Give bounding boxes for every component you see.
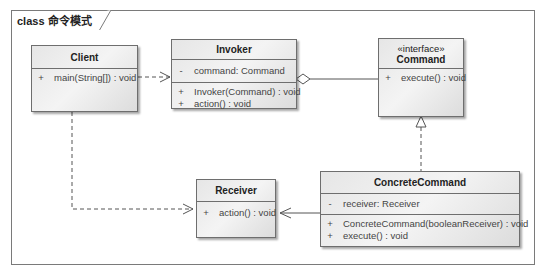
dependency-client-receiver [72,112,193,214]
association-concretecommand-receiver [280,208,320,218]
attribute-text: receiver: Receiver [339,198,420,210]
class-client[interactable]: Client + main(String[]) : void [31,45,138,112]
visibility-marker: - [172,65,190,77]
class-client-header: Client [32,46,137,69]
attribute-text: command: Command [190,65,285,77]
class-receiver[interactable]: Receiver + action() : void [196,179,276,238]
visibility-marker: + [379,72,397,84]
stereotype: «interface» [379,43,463,54]
visibility-marker: + [172,98,190,110]
visibility-marker: + [321,230,339,242]
operation-text: Invoker(Command) : void [190,86,301,98]
operation-row: + main(String[]) : void [32,72,137,84]
operation-text: execute() : void [397,72,466,84]
operation-text: main(String[]) : void [50,72,136,84]
operation-row: + action() : void [172,98,296,110]
operations-section: + main(String[]) : void [32,69,137,87]
class-name: Command [379,54,463,65]
operation-row: + Invoker(Command) : void [172,86,296,98]
operation-row: + execute() : void [321,230,519,242]
operation-text: action() : void [215,207,276,219]
attributes-section: - receiver: Receiver [321,194,519,215]
operation-row: + execute() : void [379,72,463,84]
aggregation-invoker-command [296,74,378,84]
visibility-marker: + [32,72,50,84]
visibility-marker: + [321,218,339,230]
visibility-marker: + [172,86,190,98]
class-name: Client [32,52,137,63]
class-name: Invoker [172,44,296,55]
attributes-section: - command: Command [172,60,296,83]
operation-row: + action() : void [197,207,275,219]
class-concrete-command[interactable]: ConcreteCommand - receiver: Receiver + C… [320,171,520,247]
class-name: Receiver [197,185,275,196]
class-invoker-header: Invoker [172,40,296,60]
operation-text: execute() : void [339,230,408,242]
operations-section: + action() : void [197,202,275,222]
class-command-header: «interface» Command [379,39,463,69]
operations-section: + execute() : void [379,69,463,87]
operation-row: + ConcreteCommand(booleanReceiver) : voi… [321,218,519,230]
realization-concretecommand-command [416,116,426,171]
operations-section: + Invoker(Command) : void + action() : v… [172,83,296,113]
class-concrete-command-header: ConcreteCommand [321,172,519,194]
operation-text: ConcreteCommand(booleanReceiver) : void [339,218,528,230]
attribute-row: - receiver: Receiver [321,198,519,210]
class-command[interactable]: «interface» Command + execute() : void [378,38,464,117]
operations-section: + ConcreteCommand(booleanReceiver) : voi… [321,215,519,245]
visibility-marker: + [197,207,215,219]
attribute-row: - command: Command [172,65,296,77]
class-name: ConcreteCommand [321,177,519,188]
class-receiver-header: Receiver [197,180,275,202]
dependency-client-invoker [138,72,170,82]
class-invoker[interactable]: Invoker - command: Command + Invoker(Com… [171,39,297,109]
visibility-marker: - [321,198,339,210]
operation-text: action() : void [190,98,251,110]
